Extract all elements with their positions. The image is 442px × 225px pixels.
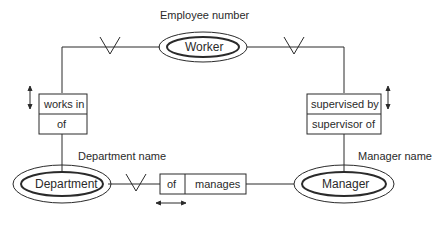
attribute-label-manager-name: Manager name xyxy=(358,151,432,162)
crows-foot-icon xyxy=(126,174,146,191)
relationship-label-manages: manages xyxy=(195,179,240,190)
attribute-label-employee-number: Employee number xyxy=(160,10,249,21)
relationship-label-supervised-by: supervised by xyxy=(311,99,379,110)
crows-foot-icon xyxy=(284,37,304,54)
vertical-double-arrow-icon xyxy=(386,86,390,109)
relationship-label-works-in: works in xyxy=(44,99,84,110)
relationship-label-manages-of: of xyxy=(167,179,176,190)
entity-label-worker: Worker xyxy=(185,41,223,53)
horizontal-double-arrow-icon xyxy=(156,201,186,205)
relationship-label-supervisor-of: supervisor of xyxy=(312,119,375,130)
entity-label-manager: Manager xyxy=(322,178,369,190)
relationship-label-of: of xyxy=(57,119,66,130)
er-diagram xyxy=(0,0,442,225)
attribute-label-department-name: Department name xyxy=(78,151,166,162)
crows-foot-icon xyxy=(100,37,120,54)
vertical-double-arrow-icon xyxy=(28,86,32,109)
entity-label-department: Department xyxy=(35,178,98,190)
